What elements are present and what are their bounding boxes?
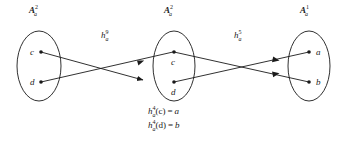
set-ellipse-right: [288, 31, 330, 101]
node-dot-middle-d: [172, 80, 176, 84]
formula-2-eq: =: [168, 120, 173, 130]
arrow-left-c-to-middle-d: [41, 52, 143, 80]
formula-1-arg: (c): [156, 106, 166, 116]
formula-2-result: b: [175, 120, 180, 130]
node-dot-right-a: [307, 50, 311, 54]
set-ellipse-left: [17, 31, 61, 101]
node-dot-left-d: [39, 80, 43, 84]
map-label-left: h9a: [101, 31, 109, 40]
node-label-right-a: a: [316, 48, 321, 57]
set-mapping-diagram: A2a A2a A1a h9a h5a c d c d a b h4a(c)=a…: [0, 0, 348, 143]
formula-2-arg: (d): [156, 120, 167, 130]
map-label-right-sub: a: [239, 36, 242, 42]
formula-1-result: a: [175, 106, 180, 116]
set-label-left-sub: a: [34, 11, 37, 17]
set-label-right-sup: 1: [306, 4, 309, 10]
node-dot-left-c: [39, 50, 43, 54]
node-dot-middle-c: [172, 50, 176, 54]
set-label-right: A1a: [300, 6, 308, 15]
map-label-left-sup: 9: [106, 29, 109, 35]
node-label-middle-d: d: [171, 88, 176, 97]
map-label-right-sup: 5: [239, 29, 242, 35]
set-label-middle-sub: a: [169, 11, 172, 17]
arrowhead-left-d-to-middle-c: [137, 60, 144, 65]
set-label-middle-sup: 2: [170, 4, 173, 10]
formula-line-2: h4a(d)=b: [148, 121, 180, 130]
node-label-middle-c: c: [171, 58, 175, 67]
node-label-left-d: d: [30, 78, 35, 87]
node-label-right-b: b: [316, 78, 321, 87]
set-label-middle: A2a: [164, 6, 172, 15]
arrowhead-middle-d-to-right-a: [272, 57, 280, 63]
map-label-right: h5a: [234, 31, 242, 40]
set-label-left: A2a: [29, 6, 37, 15]
map-label-left-sub: a: [106, 36, 109, 42]
arrowhead-middle-c-to-right-b: [272, 72, 280, 78]
formula-1-eq: =: [168, 106, 173, 116]
set-label-right-sub: a: [305, 11, 308, 17]
node-label-left-c: c: [30, 48, 34, 57]
formula-line-1: h4a(c)=a: [148, 107, 179, 116]
set-label-left-sup: 2: [35, 4, 38, 10]
node-dot-right-b: [307, 80, 311, 84]
